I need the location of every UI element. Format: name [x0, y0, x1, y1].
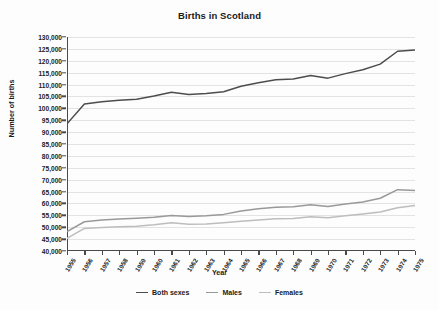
y-tick-mark — [62, 36, 66, 37]
x-tick-mark — [189, 251, 190, 255]
y-tick-mark — [62, 108, 66, 109]
x-tick-mark — [328, 251, 329, 255]
legend-label: Females — [275, 289, 303, 296]
y-tick-label: 80,000 — [42, 152, 62, 159]
y-tick-label: 50,000 — [42, 224, 62, 231]
y-tick-label: 40,000 — [42, 248, 62, 255]
y-tick-mark — [62, 48, 66, 49]
x-tick-mark — [241, 251, 242, 255]
y-tick-mark — [62, 167, 66, 168]
y-tick-mark — [62, 215, 66, 216]
x-tick-mark — [380, 251, 381, 255]
y-tick-label: 120,000 — [38, 57, 62, 64]
x-tick-mark — [224, 251, 225, 255]
y-tick-label: 90,000 — [42, 129, 62, 136]
y-tick-mark — [62, 72, 66, 73]
series-line-males — [67, 190, 415, 232]
chart-legend: Both sexesMalesFemales — [0, 289, 439, 296]
x-tick-mark — [398, 251, 399, 255]
y-tick-label: 110,000 — [39, 81, 62, 88]
legend-label: Both sexes — [152, 289, 189, 296]
y-tick-mark — [62, 143, 66, 144]
y-tick-label: 85,000 — [42, 141, 62, 148]
y-tick-mark — [62, 84, 66, 85]
y-tick-label: 70,000 — [42, 176, 62, 183]
x-tick-mark — [258, 251, 259, 255]
x-tick-mark — [206, 251, 207, 255]
y-tick-mark — [62, 120, 66, 121]
x-tick-mark — [415, 251, 416, 255]
y-tick-label: 125,000 — [38, 45, 62, 52]
y-tick-mark — [62, 179, 66, 180]
x-tick-mark — [119, 251, 120, 255]
y-tick-mark — [62, 227, 66, 228]
legend-item-both-sexes[interactable]: Both sexes — [136, 289, 189, 296]
y-tick-label: 115,000 — [39, 69, 62, 76]
y-tick-label: 45,000 — [42, 236, 62, 243]
legend-item-females[interactable]: Females — [259, 289, 303, 296]
y-tick-mark — [62, 131, 66, 132]
series-line-both-sexes — [67, 50, 415, 124]
y-tick-mark — [62, 155, 66, 156]
legend-swatch-icon — [136, 292, 148, 294]
x-tick-mark — [84, 251, 85, 255]
y-tick-label: 130,000 — [38, 34, 62, 41]
x-tick-mark — [276, 251, 277, 255]
x-tick-mark — [363, 251, 364, 255]
y-tick-mark — [62, 238, 66, 239]
y-tick-mark — [62, 203, 66, 204]
y-tick-label: 95,000 — [42, 117, 62, 124]
legend-swatch-icon — [259, 292, 271, 294]
y-tick-mark — [62, 250, 66, 251]
x-tick-mark — [102, 251, 103, 255]
y-tick-label: 75,000 — [42, 164, 62, 171]
x-axis-title: Year — [0, 268, 439, 277]
x-tick-mark — [171, 251, 172, 255]
legend-item-males[interactable]: Males — [206, 289, 241, 296]
y-axis-ticks: 40,00045,00050,00055,00060,00065,00070,0… — [0, 37, 62, 251]
y-tick-label: 55,000 — [42, 212, 62, 219]
chart-title: Births in Scotland — [0, 10, 439, 21]
births-in-scotland-chart: Births in Scotland Number of births 40,0… — [0, 0, 439, 310]
x-tick-mark — [154, 251, 155, 255]
y-tick-label: 105,000 — [38, 93, 62, 100]
legend-swatch-icon — [206, 292, 218, 294]
x-tick-mark — [67, 251, 68, 255]
legend-label: Males — [222, 289, 241, 296]
x-tick-mark — [311, 251, 312, 255]
x-tick-mark — [293, 251, 294, 255]
y-tick-mark — [62, 96, 66, 97]
y-tick-label: 100,000 — [38, 105, 62, 112]
y-tick-label: 65,000 — [42, 188, 62, 195]
y-tick-label: 60,000 — [42, 200, 62, 207]
x-tick-mark — [345, 251, 346, 255]
y-tick-mark — [62, 60, 66, 61]
series-lines — [67, 37, 415, 251]
y-tick-mark — [62, 191, 66, 192]
x-tick-mark — [137, 251, 138, 255]
